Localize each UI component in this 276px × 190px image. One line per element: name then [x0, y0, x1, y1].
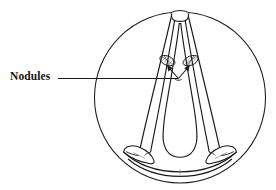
glottic-aperture [163, 24, 197, 158]
left-nodule [160, 55, 175, 65]
figure-container: Nodules [0, 0, 276, 190]
anterior-commissure [171, 11, 190, 22]
vocal-cord-diagram [0, 0, 276, 190]
nodules-label: Nodules [10, 69, 50, 83]
